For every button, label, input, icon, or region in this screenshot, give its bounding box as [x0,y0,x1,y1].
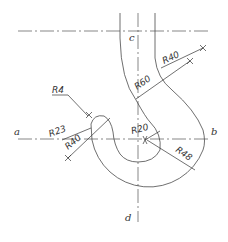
hook-left-outline [120,13,150,122]
outer-arc-r48 [92,140,203,187]
hook-right-outline [155,13,205,150]
r4-leader [52,95,88,116]
dim-r40-left: R40 [63,132,83,151]
tip-arc-r4 [91,116,104,140]
label-d: d [125,212,131,223]
drawing-svg: c a b d R4 R23 R40 R40 R60 R20 R48 [0,0,228,242]
dim-r4: R4 [52,85,64,95]
hook-technical-drawing: c a b d R4 R23 R40 R40 R60 R20 R48 [0,0,228,242]
dim-r23: R23 [47,123,67,139]
dim-r20: R20 [130,122,150,136]
label-b: b [211,126,217,137]
dim-r48: R48 [174,144,194,163]
label-a: a [14,126,20,137]
label-c: c [129,32,135,43]
